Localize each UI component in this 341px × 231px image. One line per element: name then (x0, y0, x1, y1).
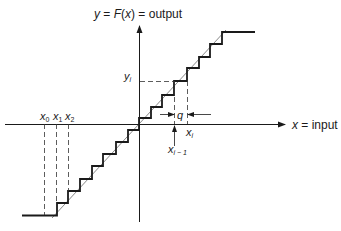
y-axis-label: y = F(x) = output (93, 7, 183, 21)
q-label: q (177, 109, 184, 121)
x0-label: x0 (39, 110, 50, 123)
x1-label: x1 (52, 110, 63, 123)
xi-label: xi (185, 126, 194, 139)
quantizer-diagram: y = F(x) = output x = input x0 x1 x2 yi … (0, 0, 341, 231)
yi-label: yi (123, 70, 132, 83)
staircase-transfer-curve (22, 32, 255, 216)
x2-label: x2 (64, 110, 75, 123)
x-axis-label: x = input (291, 118, 338, 132)
xi-minus-1-label: xi − 1 (167, 143, 187, 156)
